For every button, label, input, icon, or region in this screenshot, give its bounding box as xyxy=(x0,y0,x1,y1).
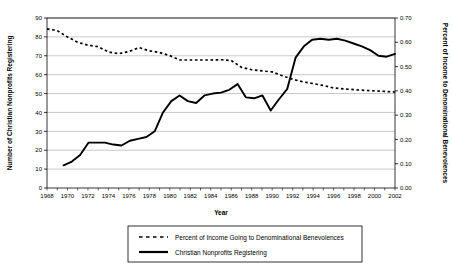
x-tick-label: 1982 xyxy=(184,193,198,199)
y-tick-label: 40 xyxy=(35,110,42,116)
x-tick-label: 1974 xyxy=(102,193,116,199)
x-tick-label: 1976 xyxy=(122,193,136,199)
line-chart: 0102030405060708090 0.000.100.200.300.40… xyxy=(0,0,452,277)
y2-axis-ticks: 0.000.100.200.300.400.500.600.70 xyxy=(395,15,412,191)
x-axis-title: Year xyxy=(214,209,228,216)
y2-tick-label: 0.50 xyxy=(400,64,412,70)
x-tick-label: 1972 xyxy=(81,193,95,199)
x-tick-label: 2002 xyxy=(388,193,402,199)
y2-tick-label: 0.60 xyxy=(400,39,412,45)
x-tick-label: 1990 xyxy=(265,193,279,199)
x-tick-label: 1970 xyxy=(61,193,75,199)
y-tick-label: 90 xyxy=(35,15,42,21)
y-tick-label: 20 xyxy=(35,147,42,153)
x-tick-label: 2000 xyxy=(368,193,382,199)
y-tick-label: 10 xyxy=(35,166,42,172)
x-tick-label: 1986 xyxy=(225,193,239,199)
y2-tick-label: 0.10 xyxy=(400,161,412,167)
chart-legend: Percent of Income Going to Denominationa… xyxy=(128,226,362,262)
y-tick-label: 80 xyxy=(35,34,42,40)
legend-label-nonprofits: Christian Nonprofits Registering xyxy=(175,249,267,257)
x-tick-label: 1988 xyxy=(245,193,259,199)
y-tick-label: 0 xyxy=(39,185,43,191)
x-tick-label: 1996 xyxy=(327,193,341,199)
x-tick-label: 1984 xyxy=(204,193,218,199)
legend-box xyxy=(128,226,362,262)
y2-tick-label: 0.40 xyxy=(400,88,412,94)
plot-area-background xyxy=(47,18,395,188)
x-tick-label: 1998 xyxy=(347,193,361,199)
x-tick-label: 1994 xyxy=(306,193,320,199)
x-axis-ticks: 1968197019721974197619781980198219841986… xyxy=(40,188,402,199)
x-tick-label: 1978 xyxy=(143,193,157,199)
y2-tick-label: 0.00 xyxy=(400,185,412,191)
x-tick-label: 1968 xyxy=(40,193,54,199)
y-tick-label: 70 xyxy=(35,53,42,59)
chart-container: 0102030405060708090 0.000.100.200.300.40… xyxy=(0,0,452,277)
y2-tick-label: 0.30 xyxy=(400,112,412,118)
y-tick-label: 50 xyxy=(35,91,42,97)
y2-tick-label: 0.20 xyxy=(400,137,412,143)
y-axis-title: Number of Christian Nonprofits Registeri… xyxy=(6,36,14,171)
y2-axis-title: Percent of Income to Denominational Bene… xyxy=(442,23,449,184)
x-tick-label: 1992 xyxy=(286,193,300,199)
y2-tick-label: 0.70 xyxy=(400,15,412,21)
legend-label-percent-income: Percent of Income Going to Denominationa… xyxy=(175,234,344,242)
y-axis-ticks: 0102030405060708090 xyxy=(35,15,47,191)
y-tick-label: 60 xyxy=(35,72,42,78)
y-tick-label: 30 xyxy=(35,129,42,135)
x-tick-label: 1980 xyxy=(163,193,177,199)
